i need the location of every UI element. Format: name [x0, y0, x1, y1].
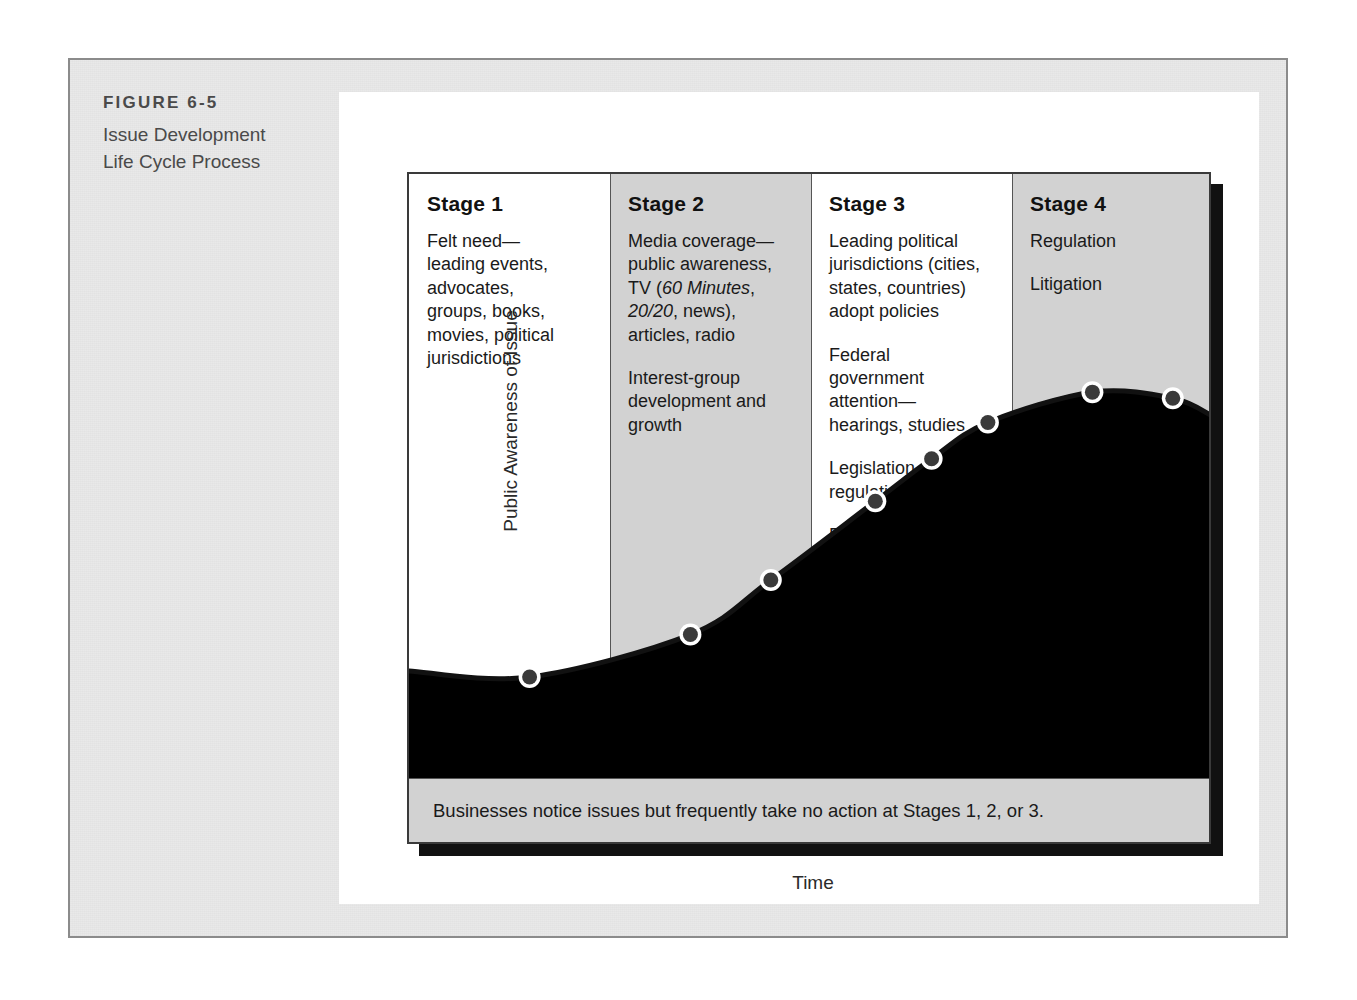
- x-axis-label: Time: [407, 872, 1219, 894]
- figure-frame: FIGURE 6-5 Issue Development Life Cycle …: [68, 58, 1288, 938]
- stage-divider-1: [610, 174, 611, 842]
- stage-title-2: Stage 2: [628, 192, 795, 216]
- stage-4-text-1: Regulation: [1030, 230, 1197, 253]
- stage-divider-3: [1012, 174, 1013, 842]
- stage-column-2: Stage 2Media coverage— public awareness,…: [610, 174, 811, 842]
- y-axis-label: Public Awareness of Issue: [500, 261, 522, 581]
- stage-title-1: Stage 1: [427, 192, 594, 216]
- stage-column-3: Stage 3Leading political jurisdictions (…: [811, 174, 1012, 842]
- stage-column-4: Stage 4RegulationLitigation: [1012, 174, 1211, 842]
- figure-number: FIGURE 6-5: [103, 93, 353, 113]
- bottom-note-strip: Businesses notice issues but frequently …: [409, 778, 1209, 842]
- chart-box: Stage 1Felt need— leading events, advoca…: [407, 172, 1211, 844]
- figure-caption: FIGURE 6-5 Issue Development Life Cycle …: [103, 93, 353, 176]
- stage-3-text-2: Federal government attention— hearings, …: [829, 344, 996, 438]
- stage-title-3: Stage 3: [829, 192, 996, 216]
- stage-2-text-2: Interest-group development and growth: [628, 367, 795, 437]
- chart-area: Stage 1Felt need— leading events, advoca…: [407, 172, 1219, 872]
- figure-page: FIGURE 6-5 Issue Development Life Cycle …: [0, 0, 1357, 1000]
- bottom-note-text: Businesses notice issues but frequently …: [433, 800, 1044, 822]
- stage-divider-2: [811, 174, 812, 842]
- stage-3-text-1: Leading political jurisdictions (cities,…: [829, 230, 996, 324]
- stage-3-text-4: Businesses often begin lobbying action i…: [829, 524, 996, 688]
- stage-4-text-2: Litigation: [1030, 273, 1197, 296]
- stage-2-text-1: Media coverage— public awareness, TV (60…: [628, 230, 795, 347]
- figure-title-line-1: Issue Development: [103, 122, 353, 149]
- stage-3-text-3: Legislation and regulation: [829, 457, 996, 504]
- stage-title-4: Stage 4: [1030, 192, 1197, 216]
- figure-title-line-2: Life Cycle Process: [103, 149, 353, 176]
- figure-title: Issue Development Life Cycle Process: [103, 122, 353, 176]
